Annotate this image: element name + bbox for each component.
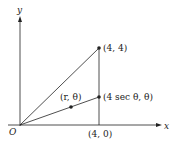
x-axis-arrow-icon <box>156 123 162 127</box>
point-4-4-label: (4, 4) <box>103 43 127 53</box>
point-4sec <box>97 95 101 99</box>
point-r-theta-label: (r, θ) <box>60 92 81 102</box>
polar-diagram: y x O (4, 4) (4 sec θ, θ) (r, θ) (4, 0) <box>0 0 175 147</box>
x-axis-label: x <box>164 121 169 131</box>
y-axis-label: y <box>16 5 23 15</box>
ray-to-4-4 <box>20 48 99 125</box>
y-axis-arrow-icon <box>18 16 22 22</box>
point-4sec-label: (4 sec θ, θ) <box>103 92 153 102</box>
point-r-theta <box>69 105 73 109</box>
origin-label: O <box>9 127 17 137</box>
tick-label-4-0: (4, 0) <box>88 129 112 139</box>
point-4-4 <box>97 46 101 50</box>
